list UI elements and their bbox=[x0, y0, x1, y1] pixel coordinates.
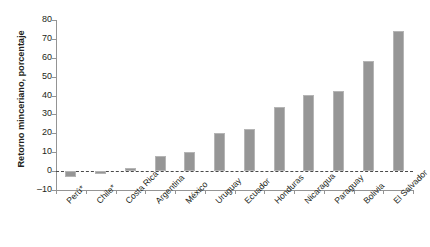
y-axis-tick-label: 50 bbox=[22, 72, 52, 81]
y-axis-tick bbox=[52, 152, 56, 153]
bar bbox=[393, 31, 404, 172]
y-axis-line bbox=[56, 20, 57, 190]
bar bbox=[95, 171, 106, 174]
bar bbox=[65, 171, 76, 177]
y-axis-tick bbox=[52, 20, 56, 21]
y-axis-tick-label: 10 bbox=[22, 147, 52, 156]
bar bbox=[214, 133, 225, 171]
y-axis-tick bbox=[52, 77, 56, 78]
y-axis-tick bbox=[52, 58, 56, 59]
y-axis-tick-label: 20 bbox=[22, 128, 52, 137]
bar bbox=[363, 61, 374, 171]
bar bbox=[244, 129, 255, 171]
y-axis-tick-label: 80 bbox=[22, 15, 52, 24]
bar bbox=[303, 95, 314, 171]
x-axis-tick bbox=[264, 190, 265, 194]
y-axis-tick-label: 70 bbox=[22, 34, 52, 43]
bar bbox=[184, 152, 195, 171]
bar bbox=[333, 91, 344, 171]
x-axis-tick bbox=[56, 190, 57, 194]
y-axis-tick bbox=[52, 39, 56, 40]
y-axis-tick-label: 60 bbox=[22, 53, 52, 62]
x-axis-labels: Perú*Chile*Costa RicaArgentinaMéxicoUrug… bbox=[56, 196, 413, 247]
clipped-header-text bbox=[0, 0, 413, 3]
y-axis-tick-label: –10 bbox=[22, 185, 52, 194]
y-axis-tick bbox=[52, 96, 56, 97]
x-axis-tick bbox=[383, 190, 384, 194]
bar bbox=[125, 168, 136, 171]
bar bbox=[155, 156, 166, 171]
y-axis-tick-label: 0 bbox=[22, 166, 52, 175]
y-axis-tick bbox=[52, 133, 56, 134]
y-axis-tick-label: 40 bbox=[22, 91, 52, 100]
x-axis-tick bbox=[145, 190, 146, 194]
y-axis-tick bbox=[52, 114, 56, 115]
y-axis-tick-label: 30 bbox=[22, 109, 52, 118]
bar bbox=[274, 107, 285, 172]
zero-reference-line bbox=[56, 171, 413, 172]
plot-area: 80706050403020100–10 bbox=[56, 20, 413, 190]
